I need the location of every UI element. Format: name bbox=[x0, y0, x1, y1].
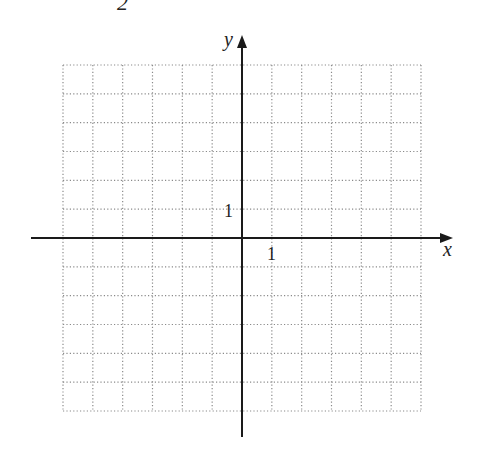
header-fragment: 2 bbox=[117, 0, 128, 15]
y-axis-label: y bbox=[222, 28, 233, 51]
coordinate-plane: 2 x y 1 1 bbox=[0, 0, 484, 460]
x-tick-label: 1 bbox=[267, 244, 276, 264]
x-axis-label: x bbox=[442, 238, 452, 260]
y-axis-arrow-icon bbox=[237, 35, 247, 48]
y-tick-label: 1 bbox=[224, 201, 233, 221]
